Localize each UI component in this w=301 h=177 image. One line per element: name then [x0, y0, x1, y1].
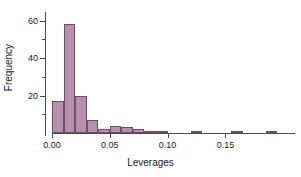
histogram-bar: [110, 126, 122, 133]
y-tick-label: 20: [18, 91, 38, 101]
x-tick: [168, 133, 169, 138]
histogram-bar: [64, 24, 76, 133]
x-axis-title: Leverages: [0, 157, 301, 168]
histogram-bar: [87, 120, 99, 133]
y-minor-tick: [42, 77, 46, 78]
y-tick-label: 40: [18, 53, 38, 63]
x-tick: [52, 133, 53, 138]
y-tick: [40, 21, 46, 22]
y-minor-tick: [42, 114, 46, 115]
y-tick: [40, 96, 46, 97]
x-tick: [225, 133, 226, 138]
y-minor-tick: [42, 39, 46, 40]
y-tick-label: 60: [18, 16, 38, 26]
x-tick-label: 0.15: [205, 140, 245, 151]
y-tick: [40, 58, 46, 59]
histogram-bar: [52, 101, 64, 133]
histogram-chart: 0.000.050.100.15 204060 Leverages Freque…: [0, 0, 301, 177]
x-tick: [110, 133, 111, 138]
y-axis-title: Frequency: [3, 31, 14, 105]
histogram-bar: [75, 96, 87, 133]
x-tick-label: 0.00: [32, 140, 72, 151]
x-axis-line: [52, 133, 295, 134]
y-axis-tick-labels: 204060: [17, 0, 38, 177]
x-tick-label: 0.10: [148, 140, 188, 151]
plot-area: [52, 15, 289, 133]
x-tick-label: 0.05: [90, 140, 130, 151]
y-axis-line: [45, 12, 46, 136]
